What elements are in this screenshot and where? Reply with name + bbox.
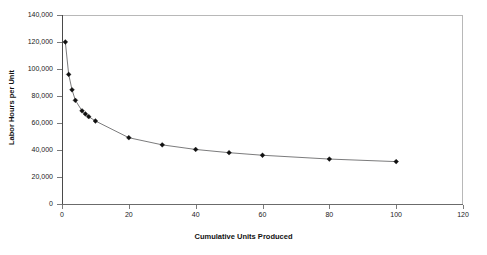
series-line bbox=[65, 42, 396, 162]
data-point-marker bbox=[70, 87, 75, 92]
data-point-marker bbox=[126, 135, 131, 140]
data-point-marker bbox=[227, 150, 232, 155]
data-point-marker bbox=[260, 153, 265, 158]
data-point-marker bbox=[327, 157, 332, 162]
data-point-marker bbox=[63, 40, 68, 45]
data-point-marker bbox=[394, 159, 399, 164]
data-point-marker bbox=[193, 147, 198, 152]
data-point-marker bbox=[160, 142, 165, 147]
data-point-marker bbox=[73, 98, 78, 103]
data-point-marker bbox=[93, 119, 98, 124]
data-point-marker bbox=[66, 72, 71, 77]
series-plot bbox=[0, 0, 487, 255]
learning-curve-chart: 020,00040,00060,00080,000100,000120,0001… bbox=[0, 0, 487, 255]
